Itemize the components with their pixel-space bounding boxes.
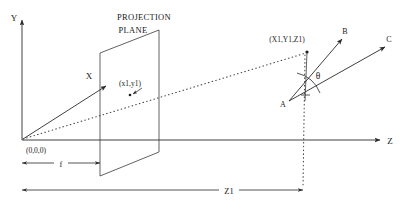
ray-ab <box>289 39 342 101</box>
drop-line-dotted <box>303 55 305 186</box>
focal-dimension-label: f <box>60 159 63 169</box>
diagram-canvas: Y Z X PROJECTION PLANE (0,0,0) (x1,y1) (… <box>0 0 408 212</box>
projection-title-line1: PROJECTION <box>117 12 171 22</box>
x-axis-label: X <box>86 71 93 81</box>
image-point-label: (x1,y1) <box>119 79 141 88</box>
image-point-dot <box>129 94 132 97</box>
origin-label: (0,0,0) <box>26 146 46 155</box>
world-point-label: (X1,Y1,Z1) <box>269 35 305 44</box>
vertex-a-label: A <box>280 100 286 109</box>
y-axis-label: Y <box>11 13 18 23</box>
image-point-leader <box>133 88 142 94</box>
ray-ac <box>289 47 385 101</box>
depth-dimension-label: Z1 <box>224 186 233 196</box>
projection-diagram: Y Z X PROJECTION PLANE (0,0,0) (x1,y1) (… <box>0 0 408 212</box>
ray-c-label: C <box>386 35 391 44</box>
projection-plane-shape <box>100 30 159 176</box>
x-axis-ray <box>23 86 106 139</box>
projection-title-line2: PLANE <box>119 25 148 35</box>
z-axis-label: Z <box>387 136 393 146</box>
ray-b-label: B <box>342 27 347 36</box>
sight-line-dotted <box>23 53 306 139</box>
theta-label: θ <box>316 71 321 81</box>
